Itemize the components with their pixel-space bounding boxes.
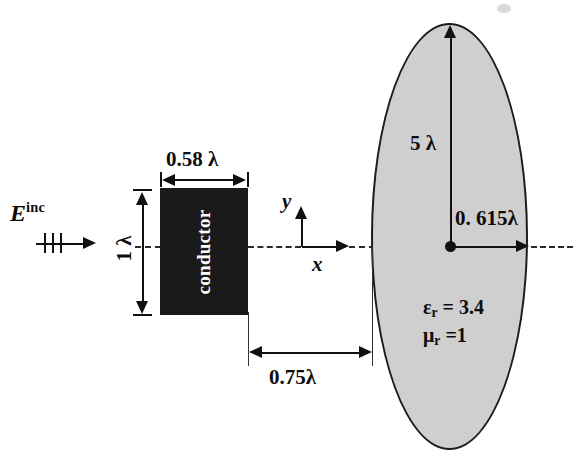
conductor-width-arrow-right xyxy=(233,174,246,186)
conductor-height-dimension-line xyxy=(142,198,144,306)
incident-field-symbol: E xyxy=(10,200,26,226)
symmetry-axis-dashed-left xyxy=(135,246,161,248)
separation-dimension-line xyxy=(256,352,366,354)
epsilon-r-label: εr = 3.4 xyxy=(423,296,484,321)
semi-minor-axis-label: 0. 615λ xyxy=(455,206,518,231)
scan-artifact-speck xyxy=(497,4,511,13)
incident-wave-arrow-head xyxy=(83,237,96,249)
conductor-height-arrow-down xyxy=(136,301,148,314)
semi-major-axis-line xyxy=(450,36,452,247)
semi-minor-axis-arrow-head xyxy=(516,240,529,252)
conductor-width-tick-right xyxy=(247,172,249,187)
mu-r-label: μr =1 xyxy=(423,324,467,349)
scattering-geometry-figure: conductor Einc 0.58 λ 1 λ y x 5 λ 0. 615… xyxy=(0,0,576,458)
x-axis-arrow-head xyxy=(336,240,349,252)
y-axis-line xyxy=(301,215,303,247)
conductor-height-tick-bottom xyxy=(133,314,152,316)
symmetry-axis-dashed-right xyxy=(531,246,573,248)
ellipse-center-dot xyxy=(445,241,456,252)
incident-field-superscript: inc xyxy=(26,199,45,215)
separation-arrow-left xyxy=(249,346,262,358)
conductor-rectangle: conductor xyxy=(160,188,248,315)
semi-major-axis-label: 5 λ xyxy=(410,131,436,156)
mu-value: =1 xyxy=(440,324,466,346)
epsilon-symbol: ε xyxy=(423,296,432,318)
conductor-width-label: 0.58 λ xyxy=(166,147,218,172)
mu-symbol: μ xyxy=(423,324,434,346)
incident-field-label: Einc xyxy=(10,199,45,227)
conductor-width-dimension-line xyxy=(172,179,236,181)
conductor-width-arrow-left xyxy=(162,174,175,186)
separation-extension-line-right xyxy=(372,246,373,366)
separation-label: 0.75λ xyxy=(269,365,316,390)
y-axis-arrow-head xyxy=(295,206,307,219)
conductor-height-arrow-up xyxy=(136,192,148,205)
x-axis-label: x xyxy=(312,252,323,277)
incident-wave-tick-1 xyxy=(44,233,46,253)
symmetry-axis-dashed-mid xyxy=(248,246,301,248)
incident-wave-tick-3 xyxy=(60,233,62,253)
conductor-height-label: 1 λ xyxy=(112,219,137,279)
semi-major-axis-arrow-head xyxy=(444,25,456,38)
conductor-height-tick-top xyxy=(133,189,152,191)
epsilon-value: = 3.4 xyxy=(438,296,484,318)
incident-wave-tick-2 xyxy=(52,233,54,253)
x-axis-line xyxy=(302,246,338,248)
separation-arrow-right xyxy=(359,346,372,358)
conductor-label: conductor xyxy=(193,209,215,294)
semi-minor-axis-line xyxy=(452,246,520,248)
y-axis-label: y xyxy=(282,189,291,214)
